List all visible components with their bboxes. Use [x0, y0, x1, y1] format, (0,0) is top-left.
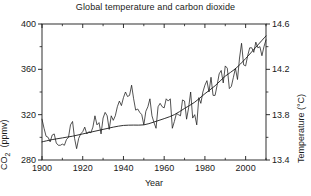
y-tick-label-right: 14.6 [272, 19, 290, 29]
y-tick-label-right: 13.4 [272, 155, 290, 165]
data-series [42, 36, 266, 149]
series-line-temperature [42, 40, 266, 149]
x-tick-label: 1980 [195, 163, 215, 173]
y-tick-label-right: 14.2 [272, 64, 290, 74]
y-tick-label-right: 13.8 [272, 110, 290, 120]
axes [42, 24, 266, 160]
x-tick-label: 1940 [113, 163, 133, 173]
plot-frame [42, 24, 266, 160]
y-tick-label-left: 320 [21, 110, 36, 120]
y-tick-label-left: 360 [21, 64, 36, 74]
chart-figure: Global temperature and carbon dioxide CO… [0, 0, 311, 196]
x-tick-label: 2000 [236, 163, 256, 173]
tick-marks [38, 24, 270, 160]
tick-labels: 19001920194019601980200028032036040013.4… [21, 19, 290, 173]
series-line-co2 [42, 36, 266, 142]
x-tick-label: 1920 [73, 163, 93, 173]
y-tick-label-left: 400 [21, 19, 36, 29]
y-tick-label-left: 280 [21, 155, 36, 165]
x-tick-label: 1960 [154, 163, 174, 173]
chart-plot: 19001920194019601980200028032036040013.4… [0, 0, 311, 196]
